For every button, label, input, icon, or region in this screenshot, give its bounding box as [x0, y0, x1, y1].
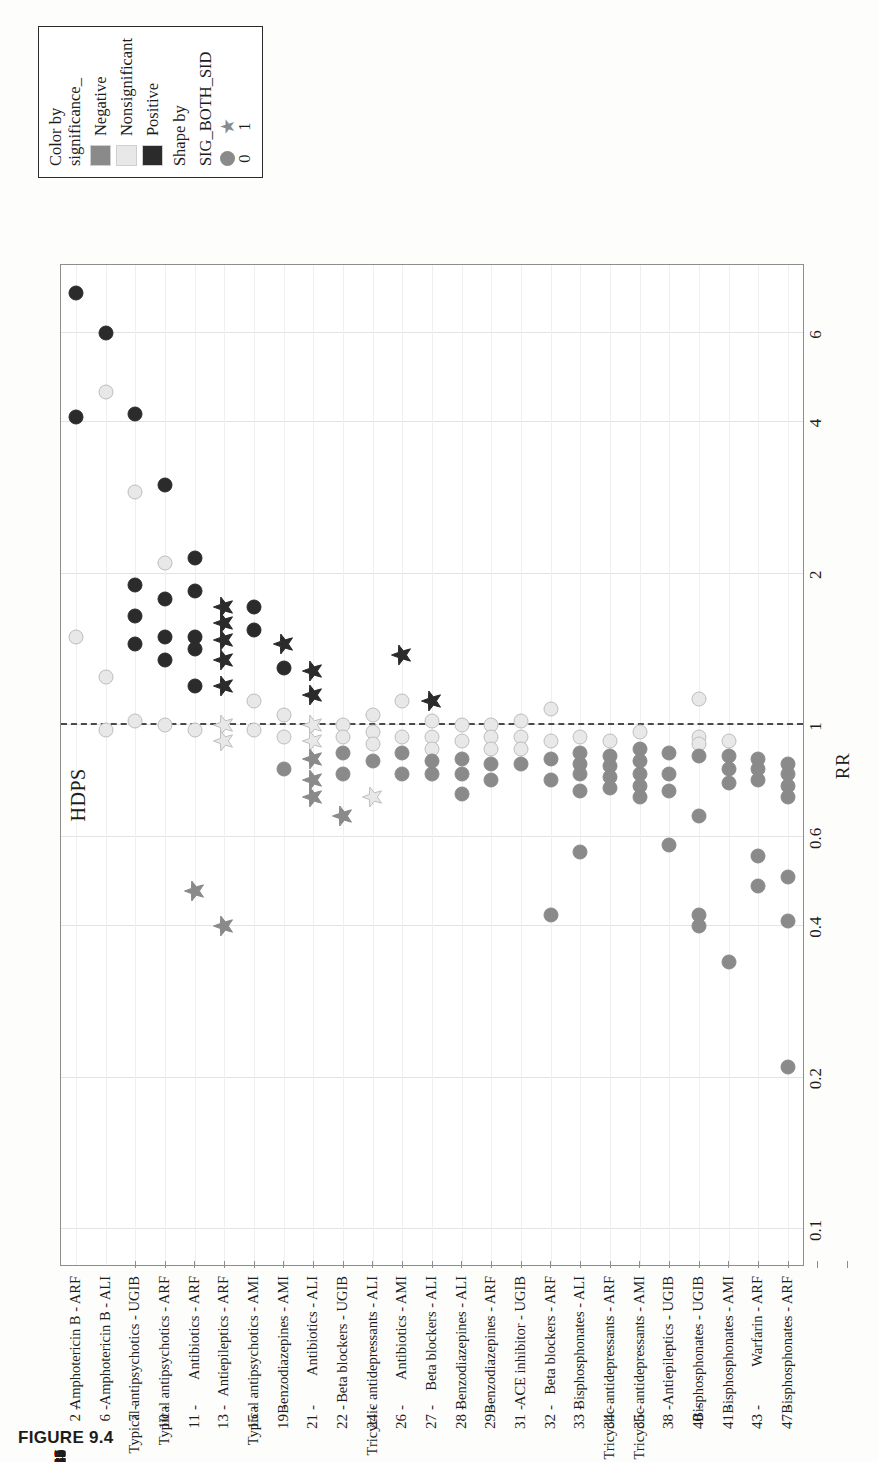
- x-tick-label: 1: [806, 722, 826, 731]
- rank-number-column: 2-6-7-10-11-13-15-19-21-22-24-26-27-28-2…: [60, 1414, 802, 1454]
- x-tick-label: 0.6: [806, 828, 826, 849]
- rank-dash: -: [690, 1405, 707, 1410]
- rank-dash: -: [482, 1405, 499, 1410]
- rank-dash: -: [719, 1405, 736, 1410]
- rank-dash: -: [512, 1405, 529, 1410]
- rank-dash: -: [571, 1405, 588, 1410]
- rank-number: 35: [630, 1414, 647, 1429]
- y-axis-tick: [847, 1261, 848, 1268]
- rank-number: 11: [185, 1414, 202, 1428]
- rank-number: 43: [749, 1414, 766, 1429]
- x-tick-label: 0.4: [806, 916, 826, 937]
- x-tick-label: 6: [806, 330, 826, 339]
- rank-number: 22: [333, 1414, 350, 1429]
- rank-number: 32: [541, 1414, 558, 1429]
- x-tick-label: 0.2: [806, 1068, 826, 1089]
- rank-dash: -: [244, 1405, 261, 1410]
- rank-number: 19: [274, 1414, 291, 1429]
- rank-dash: -: [185, 1405, 202, 1410]
- rank-dash: -: [304, 1405, 321, 1410]
- rank-number: 2: [66, 1414, 83, 1422]
- rank-number: 10: [155, 1414, 172, 1429]
- figure-caption: FIGURE 9.4: [18, 1428, 114, 1448]
- rank-number: 24: [363, 1414, 380, 1429]
- rank-number: 15: [244, 1414, 261, 1429]
- rank-number: 41: [719, 1414, 736, 1429]
- rank-number: 26: [393, 1414, 410, 1429]
- rank-dash: -: [274, 1405, 291, 1410]
- rank-dash: -: [779, 1405, 796, 1410]
- rank-dash: -: [155, 1405, 172, 1410]
- x-axis-label: RR: [832, 266, 854, 1266]
- rank-dash: -: [126, 1405, 143, 1410]
- rank-dash: -: [541, 1405, 558, 1410]
- rank-dash: -: [601, 1405, 618, 1410]
- rank-number: 47: [779, 1414, 796, 1429]
- rank-dash: -: [393, 1405, 410, 1410]
- rank-number: 38: [660, 1414, 677, 1429]
- rank-dash: -: [215, 1405, 232, 1410]
- y-axis-rank-numbers: 2671011131519212224262728293132333435384…: [60, 0, 802, 1462]
- rank-number: 34: [601, 1414, 618, 1429]
- x-tick-label: 4: [806, 419, 826, 428]
- rank-number: 33: [571, 1414, 588, 1429]
- rank-dash: -: [96, 1405, 113, 1410]
- y-axis-tick: [817, 1261, 818, 1268]
- rank-dash: -: [423, 1405, 440, 1410]
- rank-dash: -: [660, 1405, 677, 1410]
- rank-number: 13: [215, 1414, 232, 1429]
- rank-dash: -: [452, 1405, 469, 1410]
- x-tick-label: 0.1: [806, 1220, 826, 1241]
- rank-number: 29: [482, 1414, 499, 1429]
- rank-number: 7: [126, 1414, 143, 1422]
- rank-dash: -: [749, 1405, 766, 1410]
- rank-number: 27: [423, 1414, 440, 1429]
- rank-number: 6: [96, 1414, 113, 1422]
- figure-9-4: Color by significance_ Negative Nonsigni…: [0, 0, 878, 1462]
- rank-number: 40: [690, 1414, 707, 1429]
- x-tick-label: 2: [806, 571, 826, 580]
- rank-number: 28: [452, 1414, 469, 1429]
- rank-dash: -: [333, 1405, 350, 1410]
- rank-number: 21: [304, 1414, 321, 1429]
- rank-dash: -: [363, 1405, 380, 1410]
- rank-dash: -: [630, 1405, 647, 1410]
- rank-number: 31: [512, 1414, 529, 1429]
- x-axis-ticks: 0.10.20.40.61246: [806, 266, 830, 1266]
- rank-dash: -: [66, 1405, 83, 1410]
